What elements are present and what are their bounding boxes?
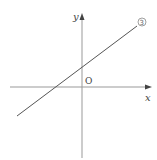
graph-line bbox=[17, 26, 137, 116]
line-label: 3 bbox=[140, 19, 144, 27]
x-axis-arrow-icon bbox=[145, 85, 152, 90]
origin-label: O bbox=[85, 76, 92, 86]
x-axis-label: x bbox=[145, 92, 151, 103]
y-axis-arrow-icon bbox=[80, 13, 85, 20]
y-axis-label: y bbox=[72, 11, 79, 22]
coordinate-diagram: y x O 3 bbox=[0, 0, 157, 160]
